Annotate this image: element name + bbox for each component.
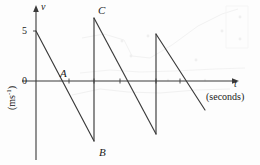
- point-label-c: C: [98, 5, 105, 16]
- y-tick-label-0: 0: [22, 76, 27, 86]
- v-axis-unit-label: (ms-1): [6, 86, 17, 110]
- segment-2-descent: [94, 18, 156, 134]
- t-axis-unit-label: (seconds): [206, 92, 244, 102]
- t-axis-symbol: t: [234, 79, 237, 89]
- y-tick-label-5: 5: [22, 26, 27, 36]
- v-axis-unit-prefix: (ms: [6, 95, 17, 110]
- v-axis-arrowhead: [33, 5, 39, 12]
- point-label-b: B: [99, 147, 106, 158]
- segment-1-descent: [36, 31, 94, 141]
- segment-3-descent: [156, 34, 205, 110]
- v-axis-symbol: v: [41, 2, 45, 12]
- figure-canvas: v t (seconds) 5 0 (ms-1) A B C: [0, 0, 260, 165]
- axis-tick-marks: [33, 31, 180, 84]
- point-label-a: A: [60, 68, 67, 79]
- v-axis-unit-suffix: ): [6, 86, 17, 89]
- axis-lines: [22, 5, 239, 160]
- velocity-time-plot: [0, 0, 260, 165]
- ghost-artifacts: [59, 6, 248, 95]
- v-axis-unit-exponent: -1: [5, 89, 13, 95]
